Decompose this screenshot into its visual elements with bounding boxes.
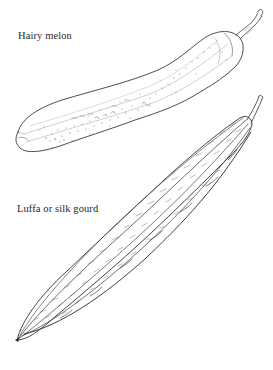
hairy-melon-outline bbox=[16, 32, 243, 152]
luffa-stem bbox=[247, 95, 263, 123]
luffa-gourd-drawing bbox=[15, 95, 263, 342]
luffa-ridges bbox=[18, 118, 251, 339]
luffa-outline bbox=[17, 116, 252, 340]
botanical-illustration bbox=[0, 0, 273, 370]
hairy-melon-texture bbox=[40, 44, 227, 149]
hairy-melon-label: Hairy melon bbox=[18, 30, 72, 41]
hairy-melon-stem bbox=[236, 9, 263, 39]
luffa-texture bbox=[34, 123, 244, 326]
luffa-gourd-label: Luffa or silk gourd bbox=[17, 203, 98, 214]
